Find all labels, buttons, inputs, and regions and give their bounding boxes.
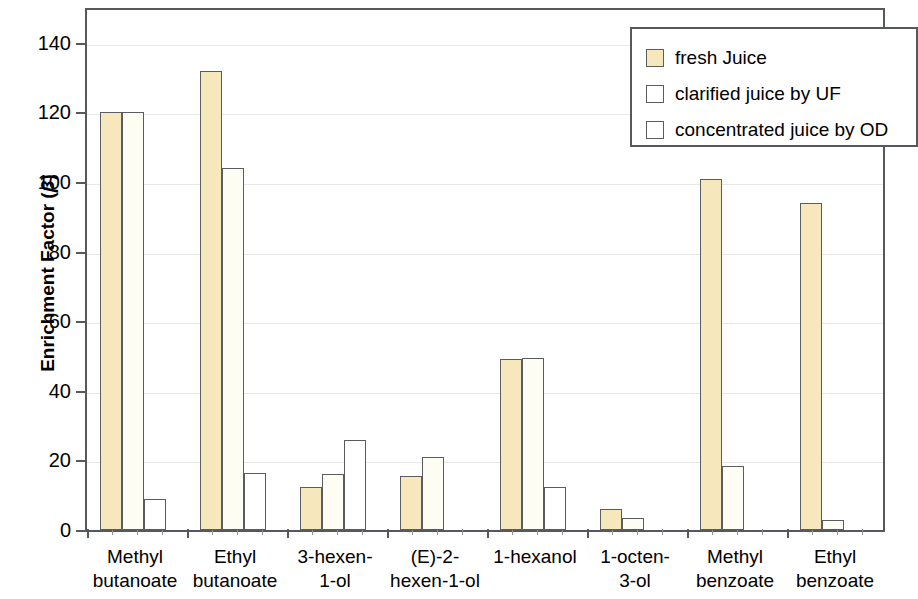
y-tick-mark (76, 112, 85, 114)
legend: fresh Juice clarified juice by UF concen… (630, 27, 918, 147)
bar (700, 179, 722, 530)
white-swatch-icon (646, 85, 664, 103)
y-tick-label: 100 (11, 172, 71, 192)
bar (344, 440, 366, 530)
x-minor-tick-mark (862, 529, 863, 535)
x-axis-labels: MethylbutanoateEthylbutanoate3-hexen-1-o… (85, 545, 885, 599)
x-tick-mark (587, 529, 589, 538)
x-tick-mark (787, 529, 789, 538)
y-tick-mark (76, 460, 85, 462)
plot-area: fresh Juice clarified juice by UF concen… (85, 8, 885, 532)
y-tick-mark (76, 391, 85, 393)
bar (422, 457, 444, 530)
x-tick-mark (287, 529, 289, 538)
y-tick-mark (76, 182, 85, 184)
x-tick-mark (87, 529, 89, 538)
y-tick-mark (76, 321, 85, 323)
y-tick-label: 60 (11, 311, 71, 331)
bar (400, 476, 422, 530)
legend-item-label: fresh Juice (675, 48, 767, 67)
bar (300, 487, 322, 531)
x-tick-mark (387, 529, 389, 538)
x-minor-tick-mark (762, 529, 763, 535)
legend-item-label: concentrated juice by OD (675, 120, 888, 139)
x-minor-tick-mark (462, 529, 463, 535)
filled-beige-swatch-icon (646, 49, 664, 67)
bar (600, 509, 622, 530)
y-tick-label: 20 (11, 450, 71, 470)
y-tick-label: 80 (11, 242, 71, 262)
x-axis-label-line: benzoate (771, 569, 899, 593)
bar (222, 168, 244, 530)
legend-item-label: clarified juice by UF (675, 84, 841, 103)
y-tick-label: 0 (11, 520, 71, 540)
legend-item[interactable]: fresh Juice (646, 41, 916, 74)
x-axis-label-line: Ethyl (771, 545, 899, 569)
bar (244, 473, 266, 530)
x-tick-mark (187, 529, 189, 538)
y-tick-label: 140 (11, 33, 71, 53)
bar (144, 499, 166, 530)
bar (544, 487, 566, 531)
y-tick-mark (76, 43, 85, 45)
y-tick-label: 120 (11, 102, 71, 122)
bar (822, 520, 844, 530)
y-tick-label: 40 (11, 381, 71, 401)
bar (100, 112, 122, 530)
bar (800, 203, 822, 530)
bar (622, 518, 644, 530)
x-axis-label-line: hexen-1-ol (371, 569, 499, 593)
y-tick-mark (76, 252, 85, 254)
bar (122, 112, 144, 530)
bar (322, 474, 344, 530)
x-minor-tick-mark (662, 529, 663, 535)
y-axis-title-text: Enrichment Factor ( (37, 192, 58, 371)
x-axis-label: Ethylbenzoate (771, 545, 899, 593)
x-tick-mark (687, 529, 689, 538)
bar (200, 71, 222, 530)
bar (522, 358, 544, 530)
bar (722, 466, 744, 530)
legend-item[interactable]: concentrated juice by OD (646, 113, 916, 146)
x-tick-mark (487, 529, 489, 538)
bar (500, 359, 522, 530)
white-swatch-icon (646, 121, 664, 139)
y-tick-mark (76, 530, 85, 532)
legend-item[interactable]: clarified juice by UF (646, 77, 916, 110)
